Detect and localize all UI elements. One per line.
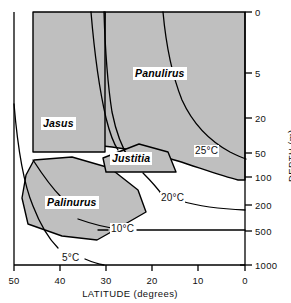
contour-5c-line-lower <box>85 259 104 265</box>
contour-20c-line-right <box>181 201 245 210</box>
x-tick-label-40: 40 <box>54 275 65 286</box>
region-label-palinurus: Palinurus <box>45 196 99 209</box>
y-tick-label-500: 500 <box>255 226 272 237</box>
y-tick-label-20: 20 <box>255 113 266 124</box>
x-axis-title: LATITUDE (degrees) <box>82 288 178 299</box>
x-tick-label-20: 20 <box>146 275 157 286</box>
y-tick-label-100: 100 <box>255 172 272 183</box>
distribution-depth-latitude-chart: 0 5 20 50 100 200 500 1000 50 40 30 20 1… <box>0 0 291 303</box>
x-tick-label-0: 0 <box>242 275 248 286</box>
region-label-jasus: Jasus <box>41 117 76 130</box>
x-tick-label-30: 30 <box>100 275 111 286</box>
x-axis-ticks <box>14 265 245 271</box>
contour-label-25c: 25°C <box>194 145 219 157</box>
region-label-panulirus: Panulirus <box>133 67 187 80</box>
region-jasus <box>33 12 105 152</box>
contour-label-10c: 10°C <box>110 223 135 235</box>
x-tick-label-50: 50 <box>8 275 19 286</box>
y-axis-title: DEPTH (m) <box>286 129 291 182</box>
region-label-justitia: Justitia <box>110 152 152 165</box>
x-tick-label-10: 10 <box>192 275 203 286</box>
y-tick-label-0: 0 <box>255 7 261 18</box>
y-tick-label-5: 5 <box>255 68 261 79</box>
contour-label-20c: 20°C <box>160 192 185 204</box>
y-tick-label-50: 50 <box>255 148 266 159</box>
contour-label-5c: 5°C <box>61 252 80 264</box>
y-tick-label-200: 200 <box>255 200 272 211</box>
y-tick-label-1000: 1000 <box>255 260 277 271</box>
